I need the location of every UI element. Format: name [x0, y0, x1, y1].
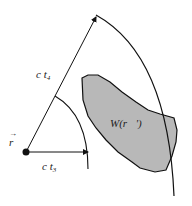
diagram-svg	[0, 0, 192, 206]
origin-point	[23, 149, 30, 156]
outer-radius-label: c t4	[36, 68, 50, 82]
region-label: W(r⃗')	[110, 117, 142, 129]
diagram-canvas: → r c t4 c t3 W(r⃗')	[0, 0, 192, 206]
inner-radius-label: c t3	[42, 160, 56, 174]
inner-arc	[55, 96, 88, 169]
position-vector-label: → r	[9, 136, 13, 148]
